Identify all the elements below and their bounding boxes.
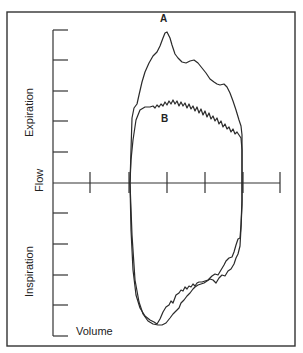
volume-axis [53,172,280,193]
inspiration-label: Inspiration [23,246,35,297]
flow-volume-diagram: A B Volume Flow Expiration Inspiration [0,0,303,353]
figure-frame [7,12,295,346]
volume-axis-label: Volume [76,325,113,337]
flow-axis-label: Flow [33,169,45,192]
curve-b-label: B [161,113,168,124]
curve-a-inspiration [130,183,242,324]
curve-a-label: A [160,13,167,24]
curve-b-inspiration [130,183,242,325]
expiration-label: Expiration [23,88,35,137]
curve-b-expiration [130,100,242,183]
